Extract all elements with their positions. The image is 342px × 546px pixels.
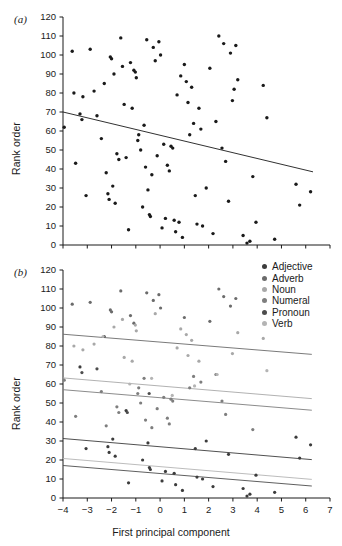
legend-item: Adverb <box>262 272 313 283</box>
legend-item: Verb <box>262 318 313 329</box>
legend-marker-icon <box>262 310 267 315</box>
legend-label: Noun <box>272 284 296 295</box>
legend-marker-icon <box>262 321 267 326</box>
panel-a-plot <box>0 0 342 262</box>
panel-a: (a) Rank order 0102030405060708090100110… <box>0 0 342 262</box>
legend: AdjectiveAdverbNounNumeralPronounVerb <box>262 261 313 329</box>
legend-marker-icon <box>262 298 267 303</box>
figure-container: (a) Rank order 0102030405060708090100110… <box>0 0 342 546</box>
panel-b: (b) Rank order 0102030405060708090100110… <box>0 258 342 546</box>
legend-item: Adjective <box>262 261 313 272</box>
legend-marker-icon <box>262 264 267 269</box>
legend-marker-icon <box>262 276 267 281</box>
legend-item: Noun <box>262 284 313 295</box>
legend-label: Adverb <box>272 273 304 284</box>
legend-label: Adjective <box>272 261 313 272</box>
legend-marker-icon <box>262 287 267 292</box>
legend-label: Verb <box>272 318 293 329</box>
legend-label: Pronoun <box>272 307 310 318</box>
legend-item: Pronoun <box>262 307 313 318</box>
legend-item: Numeral <box>262 295 313 306</box>
legend-label: Numeral <box>272 295 310 306</box>
